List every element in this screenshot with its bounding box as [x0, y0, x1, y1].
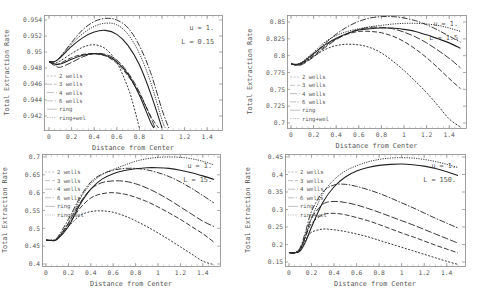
y-axis-label: Total Extraction Rate: [1, 167, 9, 253]
x-tick-label: 1.4: [441, 269, 453, 276]
y-tick-label: 0.95: [27, 48, 42, 55]
legend-entry: 2 wells: [300, 169, 324, 175]
y-tick-label: 0.45: [268, 153, 283, 160]
legend-entry: 6 wells: [57, 195, 81, 201]
y-tick-label: 0.8: [274, 52, 286, 59]
legend-entry: ring+wel: [300, 212, 327, 219]
legend-entry: ring+wel: [59, 115, 86, 122]
x-tick-label: 0.8: [134, 133, 146, 140]
parameter-annotation: L = 1.5: [429, 34, 458, 42]
x-tick-label: 0.2: [66, 133, 78, 140]
y-tick-label: 0.65: [25, 171, 40, 178]
x-tick-label: 0.8: [373, 269, 385, 276]
y-tick-label: 0.3: [272, 206, 284, 213]
series-line-ring-wel: [291, 23, 461, 64]
figure: 00.20.40.60.811.21.40.9420.9440.9460.948…: [0, 0, 477, 297]
x-tick-label: 0.6: [108, 269, 120, 276]
x-tick-label: 0.2: [306, 269, 318, 276]
x-axis-label: Distance from Center: [90, 280, 172, 288]
y-axis-label: Total Extraction Rate: [3, 30, 11, 116]
x-tick-label: 0.8: [376, 131, 388, 138]
x-tick-label: 1: [156, 269, 160, 276]
legend-entry: 4 wells: [59, 90, 83, 96]
y-tick-label: 0.55: [25, 207, 40, 214]
x-tick-label: 0.6: [353, 131, 365, 138]
series-line-2-wells: [289, 229, 458, 264]
series-line-ring: [49, 30, 162, 128]
legend: 2 wells3 wells4 wells6 wellsringring+wel: [47, 73, 86, 122]
y-tick-label: 0.948: [23, 64, 42, 71]
legend: 2 wells3 wells4 wells6 wellsringring+wel: [290, 74, 329, 123]
y-tick-label: 0.825: [266, 35, 285, 42]
parameter-annotation: L = 150.: [423, 176, 456, 184]
parameter-annotation: u = 1.: [431, 162, 456, 170]
x-axis-label: Distance from Center: [92, 144, 174, 152]
legend-entry: ring+wel: [302, 116, 329, 123]
x-tick-label: 1.2: [175, 269, 187, 276]
legend-entry: 4 wells: [57, 186, 81, 192]
x-tick-label: 1: [160, 133, 164, 140]
x-tick-label: 0: [287, 269, 291, 276]
y-tick-label: 0.15: [268, 258, 283, 265]
chart-panel-top-left: 00.20.40.60.811.21.40.9420.9440.9460.948…: [3, 16, 223, 153]
x-tick-label: 1: [400, 269, 404, 276]
parameter-annotation: L = 15.: [183, 176, 212, 184]
chart-panel-bottom-right: 00.20.40.60.811.21.40.150.20.250.30.350.…: [244, 153, 466, 288]
y-tick-label: 0.75: [270, 86, 285, 93]
parameter-annotation: u = 1.: [187, 162, 212, 170]
x-tick-label: 1.4: [202, 133, 214, 140]
legend-entry: 2 wells: [57, 169, 81, 175]
legend-entry: 6 wells: [302, 99, 326, 105]
y-tick-label: 0.85: [270, 18, 285, 25]
x-tick-label: 0: [289, 131, 293, 138]
y-tick-label: 0.35: [268, 188, 283, 195]
x-axis-label: Distance from Center: [336, 142, 418, 150]
x-tick-label: 1: [402, 131, 406, 138]
y-tick-label: 0.25: [268, 223, 283, 230]
x-tick-label: 0.6: [351, 269, 363, 276]
legend-entry: ring: [302, 107, 315, 114]
x-tick-label: 0.2: [63, 269, 75, 276]
y-tick-label: 0.952: [23, 32, 42, 39]
x-tick-label: 0.4: [331, 131, 343, 138]
y-tick-label: 0.946: [23, 80, 42, 87]
series-line-4-wells: [289, 201, 458, 253]
legend-entry: ring: [57, 203, 70, 210]
legend-entry: 3 wells: [302, 82, 326, 88]
legend-entry: ring+wel: [57, 212, 84, 219]
chart-panel-top-right: 00.20.40.60.811.21.40.70.7250.750.7750.8…: [246, 16, 467, 151]
y-tick-label: 0.775: [266, 69, 285, 76]
legend-entry: 3 wells: [57, 178, 81, 184]
legend-entry: 4 wells: [300, 186, 324, 192]
y-tick-label: 0.954: [23, 16, 42, 23]
x-tick-label: 1.4: [444, 131, 456, 138]
y-tick-label: 0.944: [23, 96, 42, 103]
y-tick-label: 0.7: [274, 119, 286, 126]
x-tick-label: 1.2: [179, 133, 191, 140]
legend-entry: ring: [300, 203, 313, 210]
y-tick-label: 0.942: [23, 112, 42, 119]
x-tick-label: 0.4: [89, 133, 101, 140]
legend-entry: 4 wells: [302, 91, 326, 97]
x-tick-label: 0.4: [85, 269, 97, 276]
legend-entry: 3 wells: [300, 178, 324, 184]
x-axis-label: Distance from Center: [334, 280, 416, 288]
x-tick-label: 0.2: [308, 131, 320, 138]
parameter-annotation: u = 1.: [189, 24, 214, 32]
y-axis-label: Total Extraction Rate: [244, 167, 252, 253]
x-tick-label: 0: [44, 269, 48, 276]
y-tick-label: 0.4: [272, 171, 284, 178]
x-tick-label: 1.4: [197, 269, 209, 276]
legend: 2 wells3 wells4 wells6 wellsringring+wel: [45, 169, 84, 219]
y-tick-label: 0.2: [272, 241, 284, 248]
legend-entry: 6 wells: [300, 195, 324, 201]
x-tick-label: 1.2: [419, 269, 431, 276]
y-tick-label: 0.5: [29, 225, 41, 232]
y-tick-label: 0.725: [266, 102, 285, 109]
x-tick-label: 0.8: [130, 269, 142, 276]
y-tick-label: 0.6: [29, 189, 41, 196]
parameter-annotation: u = 1.: [433, 20, 458, 28]
y-axis-label: Total Extraction Rate: [246, 29, 254, 115]
legend-entry: 2 wells: [59, 73, 83, 79]
parameter-annotation: L = 0.15: [181, 38, 214, 46]
